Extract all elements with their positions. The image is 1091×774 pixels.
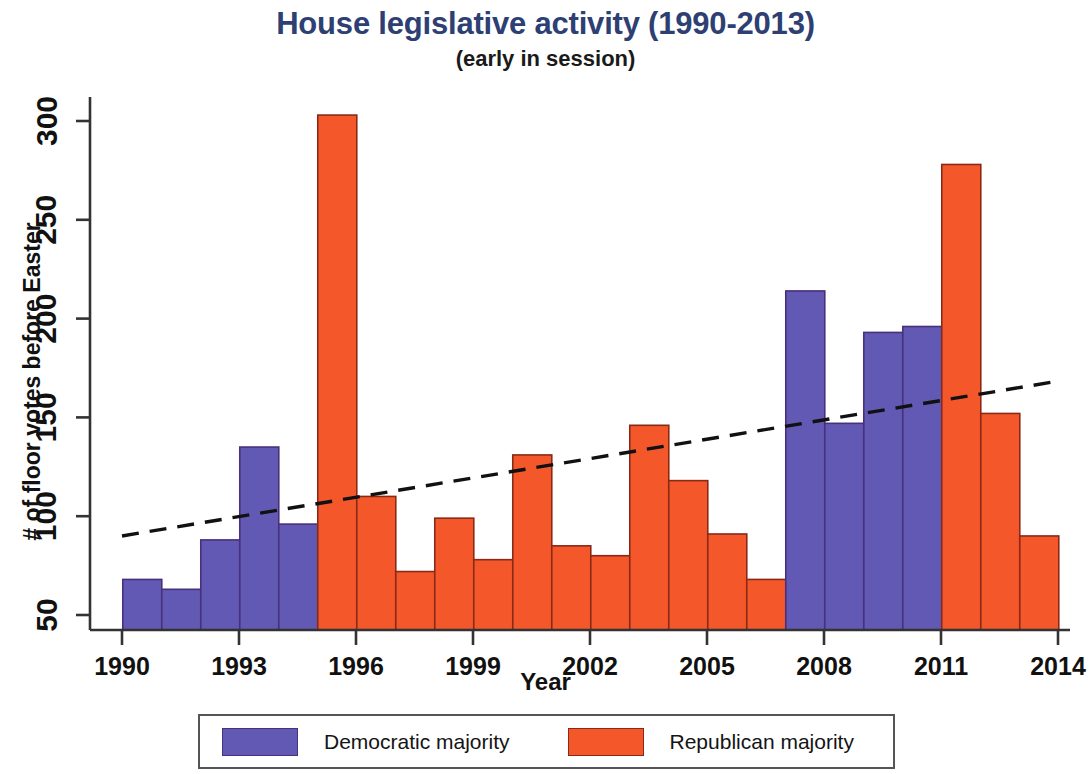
legend-swatch-republican (568, 728, 644, 756)
bar-2012 (981, 413, 1020, 630)
bar-1995 (318, 115, 357, 630)
bar-2004 (669, 481, 708, 630)
bar-1993 (240, 447, 279, 630)
y-tick-label-300: 300 (30, 96, 63, 146)
bar-2013 (1020, 536, 1059, 630)
chart-legend: Democratic majority Republican majority (198, 714, 895, 769)
bar-2010 (903, 327, 942, 631)
legend-swatch-democratic (222, 728, 298, 756)
x-axis-label: Year (0, 668, 1091, 696)
plot-area: 199019931996199920022005200820112014 501… (0, 0, 1091, 700)
bar-1999 (474, 560, 513, 630)
bar-2001 (552, 546, 591, 630)
bar-2006 (747, 579, 786, 630)
legend-entry-democratic: Democratic majority (200, 728, 548, 756)
legend-label-republican: Republican majority (670, 730, 854, 754)
bar-1994 (279, 524, 318, 630)
legend-entry-republican: Republican majority (548, 728, 894, 756)
bar-1996 (357, 496, 396, 630)
chart-figure: House legislative activity (1990-2013) (… (0, 0, 1091, 774)
bar-2002 (591, 556, 630, 630)
bar-1997 (396, 572, 435, 630)
bar-1990 (123, 579, 162, 630)
legend-label-democratic: Democratic majority (324, 730, 510, 754)
bar-1998 (435, 518, 474, 630)
bar-1992 (201, 540, 240, 630)
bar-2008 (825, 423, 864, 630)
bar-2009 (864, 332, 903, 630)
bar-2000 (513, 455, 552, 630)
bar-2005 (708, 534, 747, 630)
y-axis-label: # of floor votes before Easter (19, 142, 46, 622)
bars-layer (123, 115, 1059, 630)
bar-2007 (786, 291, 825, 630)
plot-svg: 199019931996199920022005200820112014 501… (0, 0, 1091, 700)
bar-2003 (630, 425, 669, 630)
bar-1991 (162, 589, 201, 630)
